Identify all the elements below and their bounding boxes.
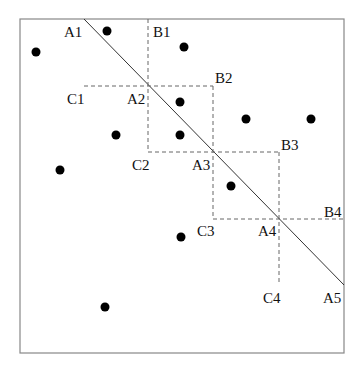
label-B1: B1 — [153, 24, 171, 40]
data-point — [103, 27, 112, 36]
label-A5: A5 — [323, 290, 341, 306]
label-B4: B4 — [324, 204, 342, 220]
label-B3: B3 — [281, 137, 299, 153]
data-point — [242, 115, 251, 124]
label-A3: A3 — [192, 157, 210, 173]
data-point — [180, 43, 189, 52]
partition-diagram: A1 B1 B2 C1 A2 B3 C2 A3 B4 C3 A4 C4 A5 — [0, 0, 362, 369]
label-C1: C1 — [67, 91, 85, 107]
data-point — [176, 98, 185, 107]
data-points — [32, 27, 316, 312]
label-A4: A4 — [258, 223, 277, 239]
label-C2: C2 — [132, 157, 150, 173]
label-C4: C4 — [263, 290, 281, 306]
label-B2: B2 — [215, 70, 233, 86]
data-point — [101, 303, 110, 312]
data-point — [227, 182, 236, 191]
data-point — [177, 233, 186, 242]
label-C3: C3 — [197, 223, 215, 239]
data-point — [32, 48, 41, 57]
data-point — [176, 131, 185, 140]
frame — [20, 19, 344, 353]
label-A1: A1 — [64, 24, 82, 40]
label-A2: A2 — [127, 91, 145, 107]
data-point — [307, 115, 316, 124]
data-point — [56, 166, 65, 175]
data-point — [112, 131, 121, 140]
